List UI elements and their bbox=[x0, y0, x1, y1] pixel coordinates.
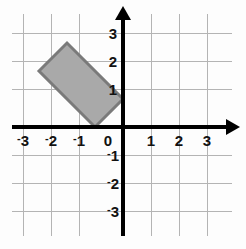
x-tick-label-2: 2 bbox=[175, 133, 183, 148]
y-tick-label-2: 2 bbox=[109, 54, 117, 69]
x-tick-label-neg3: -3 bbox=[17, 133, 29, 148]
x-tick-digit: 1 bbox=[147, 132, 155, 149]
x-tick-digit: 3 bbox=[203, 132, 211, 149]
y-tick-label-3: 3 bbox=[109, 26, 117, 41]
y-tick-digit: 2 bbox=[109, 53, 117, 70]
y-tick-digit: 3 bbox=[111, 203, 119, 220]
y-tick-digit: 3 bbox=[109, 25, 117, 42]
coordinate-plane-figure: -3 -2 -1 0 1 2 3 3 2 1 -1 -2 -3 bbox=[0, 0, 246, 249]
x-axis-arrowhead-icon bbox=[226, 119, 240, 135]
y-tick-digit: 1 bbox=[111, 147, 119, 164]
x-tick-label-3: 3 bbox=[203, 133, 211, 148]
x-tick-label-neg1: -1 bbox=[73, 133, 85, 148]
plot-canvas bbox=[0, 0, 246, 249]
x-tick-digit: 1 bbox=[77, 132, 85, 149]
x-tick-digit: 2 bbox=[49, 132, 57, 149]
y-tick-label-neg2: -2 bbox=[107, 176, 119, 191]
y-tick-label-neg1: -1 bbox=[107, 148, 119, 163]
y-tick-digit: 2 bbox=[111, 175, 119, 192]
y-tick-label-neg3: -3 bbox=[107, 204, 119, 219]
x-tick-digit: 3 bbox=[21, 132, 29, 149]
y-axis-arrowhead-icon bbox=[115, 6, 131, 20]
y-tick-digit: 1 bbox=[109, 81, 117, 98]
x-tick-label-1: 1 bbox=[147, 133, 155, 148]
x-tick-digit: 2 bbox=[175, 132, 183, 149]
x-tick-label-neg2: -2 bbox=[45, 133, 57, 148]
axes bbox=[12, 6, 240, 236]
y-tick-label-1: 1 bbox=[109, 82, 117, 97]
